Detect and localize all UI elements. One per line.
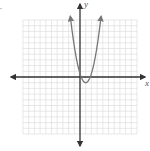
x-axis-label: x xyxy=(145,78,149,88)
problem-label: . xyxy=(0,2,2,11)
coordinate-plane xyxy=(0,0,150,151)
y-axis-label: y xyxy=(84,0,88,9)
